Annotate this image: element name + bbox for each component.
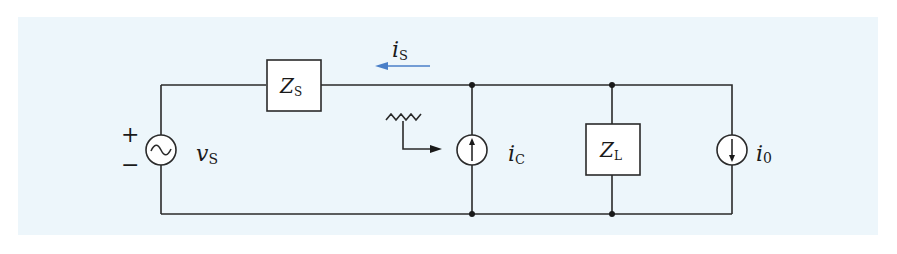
junction-dot [469, 82, 475, 88]
load-current-source-icon [717, 135, 747, 165]
source-voltage-label: vS [196, 141, 218, 167]
sawtooth-control-icon [386, 114, 442, 153]
load-current-label: i0 [756, 141, 772, 166]
junction-dot [609, 211, 615, 217]
source-plus-sign: + [121, 122, 139, 147]
wire-top-right [321, 85, 732, 135]
ac-source-icon [146, 135, 176, 165]
source-current-label: iS [392, 37, 408, 63]
junction-dot [609, 82, 615, 88]
source-minus-sign: − [121, 152, 139, 177]
compensator-current-source-icon [457, 135, 487, 165]
circuit-diagram: + − vS ZS iS iC ZL i0 [0, 0, 897, 254]
compensator-current-label: iC [508, 141, 525, 167]
source-current-arrow-icon [375, 62, 430, 70]
junction-dot [469, 211, 475, 217]
